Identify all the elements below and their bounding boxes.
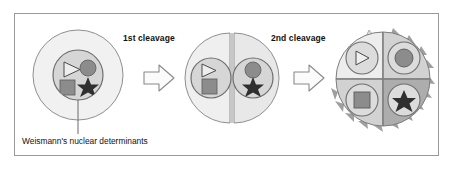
first-cleavage-label: 1st cleavage <box>123 33 175 43</box>
second-cleavage-label: 2nd cleavage <box>271 33 326 43</box>
circle-determinant <box>395 49 413 67</box>
arrow-right-icon <box>144 65 174 91</box>
transition-arrow-first-cleavage <box>142 63 176 93</box>
one-cell-stage <box>24 22 132 142</box>
square-determinant <box>354 92 370 108</box>
circle-determinant <box>245 62 261 78</box>
square-determinant <box>202 79 217 94</box>
two-cell-stage <box>181 27 283 129</box>
arrow-right-icon <box>294 65 324 91</box>
circle-determinant <box>80 60 96 76</box>
figure-root: Weismann's nuclear determinants 1st clea… <box>0 0 457 172</box>
transition-arrow-second-cleavage <box>292 63 326 93</box>
four-cell-stage <box>331 24 435 134</box>
square-determinant <box>60 80 75 95</box>
determinants-caption: Weismann's nuclear determinants <box>22 136 148 146</box>
